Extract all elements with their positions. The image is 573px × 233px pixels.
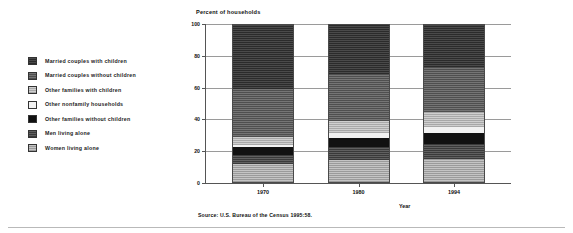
x-axis-title: Year [399, 203, 410, 209]
legend-item-other-families-with-children: Other families with children [28, 83, 198, 98]
legend-label: Other families without children [45, 117, 130, 122]
legend-item-other-nonfamily-households: Other nonfamily households [28, 98, 198, 113]
x-axis-tick-label: 1980 [353, 189, 365, 195]
legend-item-men-living-alone: Men living alone [28, 127, 198, 142]
chart-legend: Married couples with children Married co… [28, 54, 198, 156]
legend-item-married-couples-with-children: Married couples with children [28, 54, 198, 69]
medium-checkered-swatch-icon [28, 72, 37, 80]
footer-divider [8, 227, 565, 228]
y-axis-tick-label: 100 [191, 21, 200, 27]
x-axis-tick [454, 183, 455, 187]
x-axis-tick [263, 183, 264, 187]
bar-segment [329, 160, 389, 182]
x-axis-tick [359, 183, 360, 187]
legend-item-other-families-without-children: Other families without children [28, 112, 198, 127]
y-axis-tick-label: 80 [194, 53, 200, 59]
bar-segment [424, 112, 484, 127]
bar-segment [329, 74, 389, 120]
light-checkered-swatch-icon [28, 86, 37, 94]
y-axis-tick [202, 183, 206, 184]
dark-gray-checkered-swatch-icon [28, 130, 37, 138]
bar-segment [329, 121, 389, 133]
bar-1980[interactable] [328, 24, 390, 183]
x-axis-tick-label: 1994 [448, 189, 460, 195]
bar-segment [424, 144, 484, 160]
y-axis-tick-label: 0 [197, 180, 200, 186]
legend-label: Married couples with children [45, 59, 127, 64]
bar-segment [424, 159, 484, 182]
stacked-bar-chart-figure: Married couples with children Married co… [0, 0, 573, 233]
dark-checkered-swatch-icon [28, 57, 37, 65]
y-axis-tick [202, 119, 206, 120]
bar-segment [233, 155, 293, 164]
bar-segment [329, 138, 389, 147]
bar-segment [329, 25, 389, 74]
bar-segment [233, 89, 293, 137]
legend-item-married-couples-without-children: Married couples without children [28, 69, 198, 84]
light-gray-checkered-swatch-icon [28, 144, 37, 152]
y-axis-tick-label: 40 [194, 116, 200, 122]
bar-segment [424, 67, 484, 113]
legend-label: Men living alone [45, 131, 90, 136]
bar-segment [233, 137, 293, 145]
plot-area: 020406080100197019801994 [205, 24, 511, 184]
y-axis-tick [202, 24, 206, 25]
y-axis-tick [202, 56, 206, 57]
legend-label: Other nonfamily households [45, 102, 123, 107]
bar-1970[interactable] [232, 24, 294, 183]
legend-item-women-living-alone: Women living alone [28, 141, 198, 156]
legend-label: Other families with children [45, 88, 121, 93]
y-axis-title: Percent of households [196, 9, 261, 15]
bar-1994[interactable] [423, 24, 485, 183]
solid-black-swatch-icon [28, 115, 37, 123]
x-axis-tick-label: 1970 [257, 189, 269, 195]
bar-segment [424, 133, 484, 143]
y-axis-tick [202, 88, 206, 89]
bar-segment [329, 147, 389, 160]
y-axis-tick-label: 60 [194, 85, 200, 91]
legend-label: Married couples without children [45, 73, 136, 78]
y-axis-tick-label: 20 [194, 148, 200, 154]
bar-segment [233, 147, 293, 155]
white-swatch-icon [28, 101, 37, 109]
legend-label: Women living alone [45, 146, 99, 151]
y-axis-tick [202, 151, 206, 152]
source-note: Source: U.S. Bureau of the Census 1995:5… [198, 212, 312, 218]
bar-segment [424, 25, 484, 67]
bar-segment [233, 25, 293, 89]
bar-segment [233, 164, 293, 182]
